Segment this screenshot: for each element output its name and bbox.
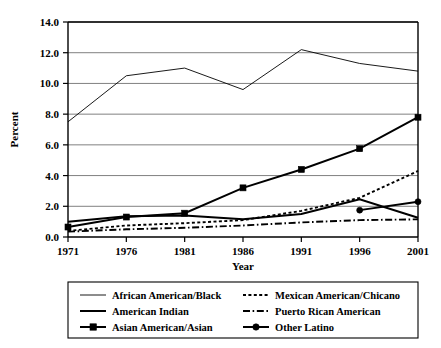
series-marker (182, 210, 188, 216)
y-axis: 0.02.04.06.08.010.012.014.0 (40, 16, 68, 243)
legend-item: Asian American/Asian (80, 322, 213, 333)
y-tick-label: 6.0 (45, 139, 59, 151)
series-marker (123, 214, 129, 220)
series-line (68, 117, 418, 227)
series-marker (65, 224, 71, 230)
series-line (68, 50, 418, 122)
series-marker (415, 114, 421, 120)
legend-marker (253, 324, 259, 330)
x-tick-label: 1971 (57, 245, 79, 257)
x-tick-label: 2001 (407, 245, 429, 257)
y-tick-label: 2.0 (45, 200, 59, 212)
series-marker (415, 199, 421, 205)
series-marker (298, 166, 304, 172)
y-tick-label: 12.0 (40, 47, 60, 59)
legend-item: Mexican American/Chicano (243, 290, 400, 301)
plot-frame (68, 22, 418, 237)
legend-label: African American/Black (112, 290, 222, 301)
legend: African American/BlackMexican American/C… (68, 282, 418, 338)
legend-marker (90, 324, 96, 330)
y-tick-label: 0.0 (45, 231, 59, 243)
gridlines (68, 22, 418, 237)
legend-label: Asian American/Asian (112, 322, 213, 333)
x-axis: 1971197619811986199119962001 (57, 237, 429, 257)
y-tick-label: 14.0 (40, 16, 60, 28)
legend-item: African American/Black (80, 290, 222, 301)
legend-item: Puerto Rican American (243, 306, 381, 317)
series-marker (240, 185, 246, 191)
x-axis-title: Year (232, 260, 254, 272)
legend-label: American Indian (112, 306, 189, 317)
x-tick-label: 1986 (232, 245, 255, 257)
data-series (68, 219, 418, 231)
series-marker (357, 146, 363, 152)
line-chart: 0.02.04.06.08.010.012.014.01971197619811… (0, 0, 441, 348)
x-tick-label: 1996 (349, 245, 372, 257)
y-tick-label: 4.0 (45, 170, 59, 182)
y-tick-label: 8.0 (45, 108, 59, 120)
x-tick-label: 1991 (290, 245, 312, 257)
series-group (65, 50, 421, 232)
legend-label: Mexican American/Chicano (275, 290, 400, 301)
x-tick-label: 1976 (115, 245, 138, 257)
y-tick-label: 10.0 (40, 77, 60, 89)
chart-figure: 0.02.04.06.08.010.012.014.01971197619811… (0, 0, 441, 348)
legend-item: American Indian (80, 306, 189, 317)
series-marker (357, 207, 363, 213)
y-axis-title: Percent (8, 111, 20, 147)
legend-item: Other Latino (243, 322, 334, 333)
data-series (65, 114, 421, 230)
series-line (68, 219, 418, 231)
x-tick-label: 1981 (174, 245, 196, 257)
data-series (68, 50, 418, 122)
legend-label: Puerto Rican American (275, 306, 381, 317)
legend-label: Other Latino (275, 322, 334, 333)
